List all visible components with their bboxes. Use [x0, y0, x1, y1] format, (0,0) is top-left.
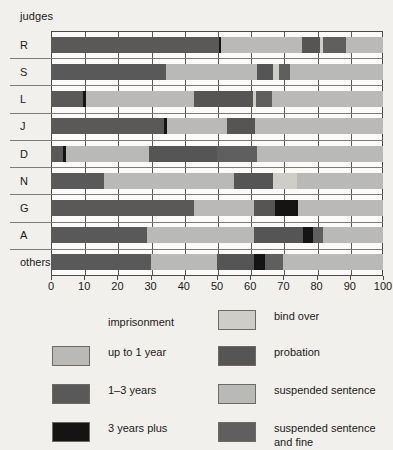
bar-segment: [217, 254, 254, 270]
legend-swatch: [52, 422, 90, 442]
bar-segment: [51, 37, 219, 53]
stacked-bar-N: [51, 173, 383, 189]
stacked-bar-others: [51, 254, 383, 270]
row-separator: [10, 167, 383, 168]
category-label-A: A: [20, 229, 27, 241]
row-separator: [10, 249, 383, 250]
legend-label: 1–3 years: [108, 384, 156, 398]
legend-heading: imprisonment: [108, 316, 174, 328]
legend-swatch: [218, 310, 256, 330]
bar-segment: [279, 64, 290, 80]
bar-segment: [51, 200, 194, 216]
category-label-S: S: [20, 66, 27, 78]
stacked-bar-J: [51, 118, 383, 134]
bar-segment: [313, 227, 323, 243]
bar-segment: [302, 37, 320, 53]
category-label-D: D: [20, 148, 28, 160]
x-axis: 0102030405060708090100: [51, 276, 383, 298]
bar-segment: [273, 173, 296, 189]
stacked-bar-A: [51, 227, 383, 243]
legend-item: suspended sentence and fine: [218, 422, 376, 450]
x-tick-label-100: 100: [374, 280, 392, 292]
bar-segment: [217, 146, 257, 162]
bar-segment: [51, 64, 166, 80]
category-label-G: G: [20, 202, 29, 214]
bar-segment: [275, 200, 298, 216]
legend-item: 3 years plus: [52, 422, 167, 442]
bar-segment: [166, 64, 257, 80]
row-separator: [10, 58, 383, 59]
category-label-L: L: [20, 93, 26, 105]
bar-segment: [283, 254, 383, 270]
bar-segment: [51, 254, 151, 270]
row-separator: [10, 113, 383, 114]
category-label-N: N: [20, 175, 28, 187]
stacked-bar-R: [51, 37, 383, 53]
bar-segment: [323, 37, 346, 53]
bar-segment: [290, 64, 383, 80]
chart-area: judges RSLJDNGAothers 010203040506070809…: [0, 0, 393, 300]
legend-item: up to 1 year: [52, 346, 166, 366]
legend-swatch: [218, 346, 256, 366]
legend-label: probation: [274, 346, 320, 360]
legend-label: suspended sentence and fine: [274, 422, 376, 450]
legend-item: suspended sentence: [218, 384, 376, 404]
legend-swatch: [52, 346, 90, 366]
bar-segment: [254, 200, 276, 216]
stacked-bar-G: [51, 200, 383, 216]
bar-segment: [227, 118, 255, 134]
bar-segment: [51, 91, 83, 107]
bar-segment: [323, 227, 383, 243]
row-separator: [10, 140, 383, 141]
legend-swatch: [218, 422, 256, 442]
bar-segment: [265, 254, 283, 270]
x-tick-label-60: 60: [244, 280, 256, 292]
bar-segment: [254, 227, 304, 243]
x-tick-label-80: 80: [310, 280, 322, 292]
x-tick-label-20: 20: [111, 280, 123, 292]
bar-segment: [255, 118, 383, 134]
category-label-R: R: [20, 39, 28, 51]
category-label-others: others: [20, 256, 51, 268]
x-tick-label-50: 50: [211, 280, 223, 292]
bar-segment: [66, 146, 149, 162]
bar-segment: [221, 37, 301, 53]
stacked-bar-S: [51, 64, 383, 80]
bar-segment: [51, 227, 147, 243]
legend-label: up to 1 year: [108, 346, 166, 360]
stacked-bar-L: [51, 91, 383, 107]
bar-segment: [167, 118, 227, 134]
x-tick-label-40: 40: [178, 280, 190, 292]
bar-segment: [149, 146, 217, 162]
bar-segment: [297, 173, 383, 189]
x-tick-label-90: 90: [344, 280, 356, 292]
chart-legend: imprisonment up to 1 year1–3 years3 year…: [0, 300, 393, 444]
bar-segment: [151, 254, 217, 270]
category-label-J: J: [20, 120, 26, 132]
x-tick-label-0: 0: [48, 280, 54, 292]
bar-segment: [51, 118, 164, 134]
bar-segment: [104, 173, 233, 189]
x-tick-label-30: 30: [144, 280, 156, 292]
row-separator: [10, 85, 383, 86]
bar-segment: [254, 254, 266, 270]
bar-segment: [256, 91, 272, 107]
legend-label: bind over: [274, 310, 319, 324]
stacked-bar-D: [51, 146, 383, 162]
bar-segment: [298, 200, 383, 216]
bar-segment: [272, 91, 383, 107]
bar-segment: [303, 227, 313, 243]
row-separator: [10, 194, 383, 195]
bar-segment: [257, 146, 383, 162]
row-separator: [10, 222, 383, 223]
bar-segment: [51, 146, 63, 162]
legend-label: suspended sentence: [274, 384, 376, 398]
legend-item: probation: [218, 346, 320, 366]
x-tick-label-10: 10: [78, 280, 90, 292]
bar-segment: [257, 64, 274, 80]
bar-segment: [51, 173, 104, 189]
legend-swatch: [52, 384, 90, 404]
legend-swatch: [218, 384, 256, 404]
legend-item: 1–3 years: [52, 384, 156, 404]
x-tick-label-70: 70: [277, 280, 289, 292]
